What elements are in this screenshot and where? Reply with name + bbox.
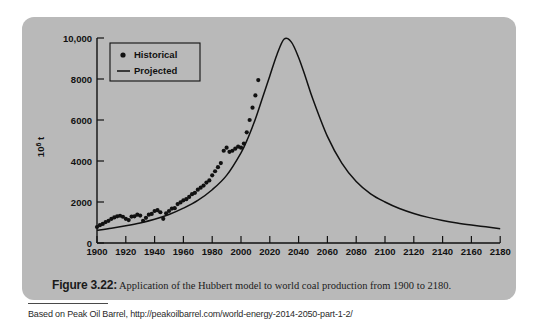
x-tick-label-2100: 2100 — [374, 246, 395, 255]
y-axis-label: 106 t — [35, 136, 46, 157]
y-tick-label-2000: 2000 — [71, 197, 92, 208]
historical-data-point — [245, 130, 249, 134]
svg-text:106 t: 106 t — [35, 136, 46, 157]
hubbert-coal-production-chart: 106 t 10,000 8000 6000 4000 2000 — [22, 17, 516, 255]
x-tick-label-2160: 2160 — [461, 246, 482, 255]
x-tick-label-2040: 2040 — [288, 246, 309, 255]
x-tick-label-2180: 2180 — [490, 246, 511, 255]
historical-data-point — [222, 149, 226, 153]
historical-scatter-points — [95, 78, 260, 229]
historical-data-point — [219, 161, 223, 165]
x-tick-label-1940: 1940 — [144, 246, 165, 255]
y-axis-label-base: 10 — [35, 147, 46, 158]
x-tick-label-1960: 1960 — [173, 246, 194, 255]
x-tick-label-2080: 2080 — [346, 246, 367, 255]
legend-marker-historical-icon — [120, 52, 125, 57]
historical-data-point — [213, 169, 217, 173]
historical-data-point — [158, 210, 162, 214]
y-tick-label-4000: 4000 — [71, 156, 92, 167]
x-axis-ticks: 1900 1920 1940 1960 1980 2000 2020 2040 … — [86, 236, 510, 255]
x-tick-label-2000: 2000 — [230, 246, 251, 255]
figure-source: Based on Peak Oil Barrel, http://peakoil… — [28, 309, 508, 319]
historical-data-point — [173, 206, 177, 210]
historical-data-point — [138, 213, 142, 217]
x-tick-label-1980: 1980 — [202, 246, 223, 255]
x-tick-label-2140: 2140 — [432, 246, 453, 255]
historical-data-point — [127, 218, 131, 222]
historical-data-point — [207, 178, 211, 182]
historical-data-point — [144, 216, 148, 220]
historical-data-point — [239, 146, 243, 150]
x-tick-label-2060: 2060 — [317, 246, 338, 255]
historical-data-point — [256, 78, 260, 82]
chart-plot-area: 106 t 10,000 8000 6000 4000 2000 — [22, 17, 516, 255]
historical-data-point — [253, 93, 257, 97]
legend-label-historical: Historical — [134, 49, 177, 60]
historical-data-point — [248, 118, 252, 122]
figure-card: 106 t 10,000 8000 6000 4000 2000 — [22, 17, 516, 300]
historical-data-point — [250, 106, 254, 110]
legend-label-projected: Projected — [134, 65, 177, 76]
x-tick-label-1900: 1900 — [86, 246, 107, 255]
y-tick-label-8000: 8000 — [71, 74, 92, 85]
figure-caption-text: Application of the Hubbert model to worl… — [117, 280, 451, 291]
historical-data-point — [161, 217, 165, 221]
figure-caption-label: Figure 3.22: — [52, 278, 117, 292]
historical-data-point — [193, 191, 197, 195]
y-tick-label-10000: 10,000 — [63, 33, 92, 44]
y-tick-label-6000: 6000 — [71, 115, 92, 126]
historical-data-point — [216, 165, 220, 169]
historical-data-point — [225, 146, 229, 150]
historical-data-point — [201, 184, 205, 188]
y-axis-ticks: 10,000 8000 6000 4000 2000 0 — [63, 33, 104, 249]
source-divider — [28, 303, 108, 304]
historical-data-point — [242, 141, 246, 145]
historical-data-point — [210, 173, 214, 177]
historical-data-point — [141, 219, 145, 223]
y-axis-label-unit: t — [35, 136, 46, 143]
chart-legend: Historical Projected — [110, 43, 200, 81]
x-tick-label-1920: 1920 — [115, 246, 136, 255]
x-tick-label-2020: 2020 — [259, 246, 280, 255]
figure-caption: Figure 3.22: Application of the Hubbert … — [52, 279, 522, 292]
x-tick-label-2120: 2120 — [403, 246, 424, 255]
